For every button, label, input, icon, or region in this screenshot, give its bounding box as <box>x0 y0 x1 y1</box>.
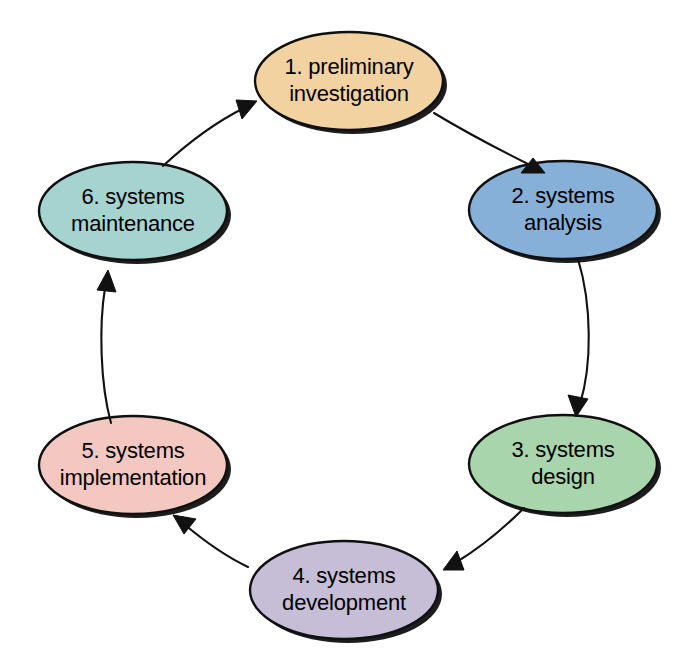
arrow-1-to-2-line <box>434 113 534 167</box>
sdlc-cycle-diagram: 1. preliminary investigation 2. systems … <box>0 0 688 672</box>
arrow-2-to-3-line <box>578 259 589 404</box>
node-ellipse-3[interactable] <box>469 415 657 513</box>
arrow-2-to-3 <box>568 259 589 417</box>
node-ellipse-5[interactable] <box>39 416 227 514</box>
cycle-graphics <box>0 0 688 672</box>
arrow-5-to-6-line <box>101 288 111 423</box>
arrow-6-to-1-head <box>236 100 257 119</box>
arrow-2-to-3-head <box>568 395 588 417</box>
arrow-4-to-5-line <box>184 524 248 567</box>
node-ellipse-4[interactable] <box>250 541 438 639</box>
node-ellipse-2[interactable] <box>469 161 657 259</box>
arrow-3-to-4-head <box>443 551 464 570</box>
node-ellipse-1[interactable] <box>255 32 443 130</box>
node-ellipse-6[interactable] <box>39 162 227 260</box>
arrow-3-to-4-line <box>455 508 524 563</box>
arrow-6-to-1-line <box>163 108 244 166</box>
arrow-1-to-2 <box>434 113 545 173</box>
arrow-5-to-6-head <box>97 270 116 292</box>
arrow-6-to-1 <box>163 100 257 166</box>
arrow-3-to-4 <box>443 508 524 570</box>
arrow-5-to-6 <box>97 270 116 423</box>
arrow-4-to-5 <box>173 515 248 567</box>
